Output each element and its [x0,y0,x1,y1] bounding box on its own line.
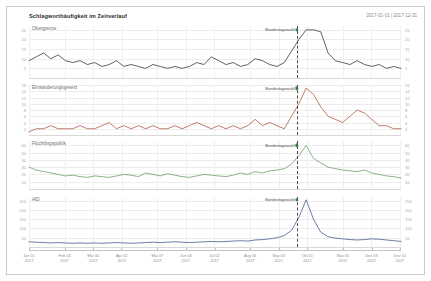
panel-label: Flüchtlingspolitik [32,141,66,146]
chart-screenshot: Schlagworthäufigkeit im Zeitverlauf 2017… [0,0,431,281]
y-tick-label: 100 [19,226,26,231]
y-tick-label: 4 [405,120,407,125]
x-tick-year: 2017 [244,258,256,263]
panel-baseline [29,189,401,190]
x-tick-year: 2017 [59,258,71,263]
x-tick: Mai 072017 [152,250,164,264]
x-tick: Jul 022017 [209,250,219,264]
data-line [29,200,401,244]
y-tick-label: 14 [405,89,409,94]
y-tick-label: 10 [22,101,26,106]
y-tick-label: 12 [405,95,409,100]
page-title: Schlagworthäufigkeit im Zeitverlauf [29,13,127,19]
y-tick-label: 16 [405,83,409,88]
y-tick-label: 60 [22,143,26,148]
x-tick: Feb 052017 [59,250,71,264]
y-axis-left: 50100150200250 [2,197,28,247]
y-tick-label: 50 [405,235,409,240]
x-tick: Jan 012017 [23,250,35,264]
y-tick-label: 50 [405,150,409,155]
x-tick-mark [93,248,94,251]
y-tick-label: 150 [405,217,412,222]
y-tick-label: 100 [405,226,412,231]
y-tick-label: 15 [405,47,409,52]
y-tick-label: 6 [24,114,26,119]
y-tick-label: 10 [405,56,409,61]
y-tick-label: 25 [405,27,409,32]
annotation-label: Bundestagswahl [265,197,296,202]
x-tick-mark [65,248,66,251]
y-tick-label: 20 [405,172,409,177]
panel-label: Einwanderungsgesetz [32,85,77,90]
x-tick: Mär 052017 [87,250,99,264]
date-range-label: 2017-01-01 | 2017-12-31 [366,13,417,18]
x-tick-mark [29,248,30,251]
x-tick-year: 2017 [116,258,127,263]
y-tick-label: 10 [22,56,26,61]
y-tick-label: 14 [22,89,26,94]
x-tick-mark [400,248,401,251]
x-axis: Jan 012017Feb 052017Mär 052017Apr 022017… [29,250,401,274]
x-tick-mark [186,248,187,251]
y-axis-left: 246810121416 [2,85,28,135]
annotation-line-bundestagswahl [297,85,298,135]
annotation-line-bundestagswahl [297,197,298,247]
x-tick-year: 2017 [209,258,219,263]
y-tick-label: 20 [22,172,26,177]
x-tick-year: 2017 [23,258,35,263]
y-tick-label: 16 [22,83,26,88]
x-tick-year: 2017 [87,258,99,263]
y-tick-label: 12 [22,95,26,100]
y-tick-label: 40 [22,157,26,162]
series-line-einwanderungsgesetz [29,85,401,135]
x-tick-mark [343,248,344,251]
panel-afd: 5010015020025050100150200250Bundestagswa… [29,197,401,247]
y-tick-label: 5 [405,66,407,71]
y-axis-right: 246810121416 [403,85,429,135]
annotation-label: Bundestagswahl [265,27,296,32]
x-tick: Jun 042017 [180,250,192,264]
panel-label: AfD [32,197,40,202]
y-tick-label: 30 [22,165,26,170]
y-tick-label: 8 [405,108,407,113]
data-line [29,30,401,69]
x-tick: Sep 032017 [273,250,285,264]
y-axis-right: 510152025 [403,26,429,78]
annotation-line-bundestagswahl [297,26,298,78]
panel-label: Obergrenze [32,26,56,31]
panel-obergrenze: 510152025510152025BundestagswahlObergren… [29,26,401,78]
y-tick-label: 200 [405,207,412,212]
x-tick-mark [371,248,372,251]
data-line [29,145,401,178]
annotation-label: Bundestagswahl [265,85,296,90]
series-line-afd [29,197,401,247]
x-tick-mark [122,248,123,251]
y-tick-label: 6 [405,114,407,119]
y-tick-label: 8 [24,108,26,113]
panel-baseline [29,135,401,136]
y-tick-label: 50 [22,150,26,155]
y-tick-label: 250 [405,198,412,203]
x-tick: Apr 022017 [116,250,127,264]
y-tick-label: 150 [19,217,26,222]
y-tick-label: 15 [22,47,26,52]
y-tick-label: 10 [22,179,26,184]
y-axis-left: 510152025 [2,26,28,78]
y-tick-label: 25 [22,27,26,32]
x-tick-mark [307,248,308,251]
y-tick-label: 2 [24,126,26,131]
panel-einwanderungsgesetz: 246810121416246810121416BundestagswahlEi… [29,85,401,135]
series-line-obergrenze [29,26,401,78]
y-tick-label: 20 [22,37,26,42]
y-axis-right: 50100150200250 [403,197,429,247]
y-tick-label: 10 [405,179,409,184]
y-tick-label: 5 [24,66,26,71]
x-tick-year: 2017 [273,258,285,263]
x-tick: Nov 052017 [337,250,349,264]
y-tick-label: 50 [22,235,26,240]
x-tick: Aug 062017 [244,250,256,264]
y-tick-label: 40 [405,157,409,162]
y-tick-label: 2 [405,126,407,131]
x-tick-year: 2017 [337,258,349,263]
x-tick-year: 2017 [301,258,312,263]
